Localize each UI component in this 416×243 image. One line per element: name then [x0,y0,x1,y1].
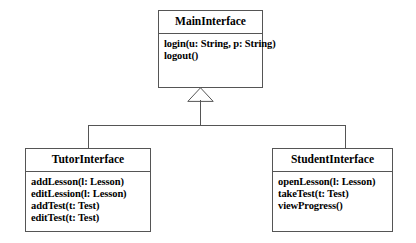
class-box-main-interface[interactable]: MainInterface login(u: String, p: String… [158,10,263,88]
class-name-tutor-interface: TutorInterface [26,149,150,172]
class-box-tutor-interface[interactable]: TutorInterface addLesson(l: Lesson) edit… [25,148,151,232]
class-member: editTest(t: Test) [31,212,150,224]
generalization-stem-line [200,100,201,126]
class-member: logout() [164,50,262,62]
class-member: login(u: String, p: String) [164,38,262,50]
generalization-horizontal-bar [88,125,346,126]
members-compartment-tutor-interface: addLesson(l: Lesson) editLession(l: Less… [26,172,150,228]
class-member: addTest(t: Test) [31,200,150,212]
class-box-student-interface[interactable]: StudentInterface openLesson(l: Lesson) t… [272,148,393,232]
uml-class-diagram-canvas: MainInterface login(u: String, p: String… [0,0,416,243]
class-member: viewProgress() [278,200,392,212]
members-compartment-main-interface: login(u: String, p: String) logout() [159,34,262,65]
class-member: openLesson(l: Lesson) [278,176,392,188]
class-name-student-interface: StudentInterface [273,149,392,172]
class-member: editLession(l: Lesson) [31,188,150,200]
class-member: addLesson(l: Lesson) [31,176,150,188]
generalization-drop-line-tutor [88,125,89,149]
generalization-drop-line-student [345,125,346,149]
members-compartment-student-interface: openLesson(l: Lesson) takeTest(t: Test) … [273,172,392,216]
class-name-main-interface: MainInterface [159,11,262,34]
class-member: takeTest(t: Test) [278,188,392,200]
